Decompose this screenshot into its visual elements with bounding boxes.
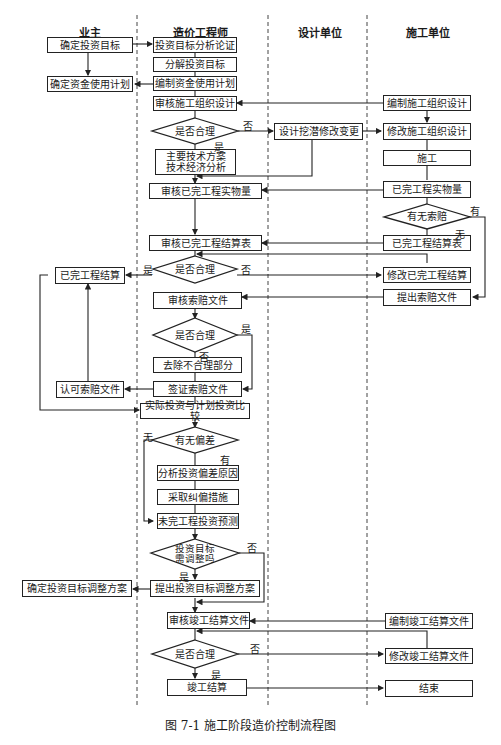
box-eng-review-qty[interactable]: 审核已完工程实物量 (149, 183, 262, 199)
box-eng-review-settle[interactable]: 审核已完工程结算表 (149, 235, 262, 251)
box-con-prepare-org[interactable]: 编制施工组织设计 (383, 95, 471, 111)
box-owner-target[interactable]: 确定投资目标 (47, 37, 133, 53)
box-con-modify-org[interactable]: 修改施工组织设计 (383, 123, 471, 140)
label-no-deviation: 无 (143, 429, 153, 444)
box-eng-compare[interactable]: 实际投资与计划投资比较 (140, 403, 250, 419)
label-yes-adjust: 是 (179, 569, 189, 584)
box-eng-analyze-deviation[interactable]: 分析投资偏差原因 (157, 465, 239, 481)
box-eng-propose-adjust[interactable]: 提出投资目标调整方案 (150, 580, 260, 597)
label-no-3: 否 (199, 349, 209, 364)
decision-reasonable-2: 是否合理 (153, 256, 237, 283)
box-con-modify-final[interactable]: 修改竣工结算文件 (385, 648, 473, 664)
box-eng-analyze[interactable]: 投资目标分析论证 (153, 37, 237, 53)
box-eng-sign-claim[interactable]: 签证索赔文件 (153, 381, 242, 397)
box-con-submit-claim[interactable]: 提出索赔文件 (383, 289, 471, 306)
box-eng-decompose[interactable]: 分解投资目标 (153, 57, 237, 72)
label-no-adjust: 否 (247, 540, 257, 555)
box-eng-forecast[interactable]: 未完工程投资预测 (157, 513, 239, 529)
label-no-claim: 无 (455, 226, 465, 241)
box-eng-remove-unreasonable[interactable]: 去除不合理部分 (153, 357, 242, 373)
label-has-claim: 有 (470, 203, 480, 218)
box-eng-fund-plan[interactable]: 编制资金使用计划 (153, 76, 237, 91)
box-design-change[interactable]: 设计挖潜修改变更 (274, 123, 363, 140)
box-owner-settle[interactable]: 已完工程结算 (55, 267, 125, 284)
box-owner-fund-plan[interactable]: 确定资金使用计划 (47, 76, 133, 92)
decision-adjust-target: 投资目标 需调整吗 (151, 540, 239, 568)
box-owner-adjust-plan[interactable]: 确定投资目标调整方案 (22, 580, 132, 597)
decision-reasonable-1: 是否合理 (152, 118, 238, 144)
box-eng-correct[interactable]: 采取纠偏措施 (157, 489, 239, 505)
box-eng-final-settle[interactable]: 竣工结算 (167, 679, 247, 696)
label-has-deviation: 有 (220, 452, 230, 467)
label-yes-3: 是 (241, 321, 251, 336)
box-eng-review-final[interactable]: 审核竣工结算文件 (167, 612, 250, 629)
box-eng-review-org[interactable]: 审核施工组织设计 (153, 96, 237, 111)
flowchart-connectors (0, 0, 501, 745)
figure-caption: 图 7-1 施工阶段造价控制流程图 (0, 716, 501, 733)
box-con-build[interactable]: 施工 (383, 150, 471, 166)
box-con-modify-settle[interactable]: 修改已完工程结算 (383, 267, 471, 283)
box-con-qty[interactable]: 已完工程实物量 (383, 181, 471, 198)
label-no-2: 否 (241, 262, 251, 277)
lane-header-construction-unit: 施工单位 (388, 24, 468, 40)
label-yes-4: 是 (211, 667, 221, 682)
box-con-prepare-final[interactable]: 编制竣工结算文件 (385, 613, 473, 629)
label-yes-2: 是 (143, 262, 153, 277)
label-no-4: 否 (250, 641, 260, 656)
decision-deviation: 有无偏差 (152, 427, 238, 453)
decision-reasonable-3: 是否合理 (153, 318, 237, 352)
label-yes-1: 是 (214, 139, 224, 154)
lane-header-design-unit: 设计单位 (280, 24, 360, 40)
decision-reasonable-4: 是否合理 (152, 640, 238, 668)
box-con-end[interactable]: 结束 (385, 680, 473, 697)
label-no-1: 否 (243, 118, 253, 133)
box-eng-review-claim[interactable]: 审核索赔文件 (153, 292, 242, 309)
box-owner-approve-claim[interactable]: 认可索赔文件 (56, 381, 124, 398)
